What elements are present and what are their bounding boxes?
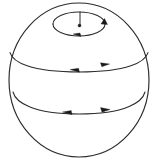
polar-circle-back-arc xyxy=(53,12,105,24)
sphere-flow-diagram: Sphere with latitude flow circles xyxy=(0,0,158,159)
upper-latitude-front-arc xyxy=(10,53,148,72)
flow-arrow-upper-right-icon xyxy=(101,63,110,67)
lower-latitude-front-arc xyxy=(13,92,145,114)
pole-center-dot xyxy=(78,24,81,27)
sphere-canvas xyxy=(0,0,158,159)
flow-arrow-polar-right-icon xyxy=(101,19,108,25)
